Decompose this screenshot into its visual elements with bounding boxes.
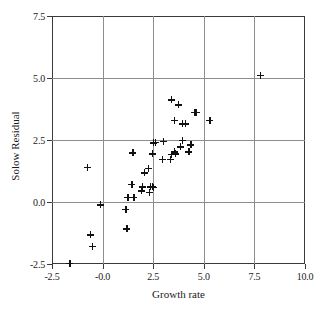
x-tick-label: 2.5: [147, 271, 159, 282]
x-axis-label: Growth rate: [52, 288, 305, 300]
gridline-horizontal: [52, 202, 305, 203]
y-tick-mark: [47, 202, 52, 203]
y-tick-mark: [47, 16, 52, 17]
x-tick-label: 10.0: [297, 271, 314, 282]
x-tick-mark: [153, 264, 154, 269]
y-tick-mark: [47, 78, 52, 79]
y-tick-label: 2.5: [33, 135, 45, 146]
x-tick-label: 7.5: [248, 271, 260, 282]
y-tick-label: 5.0: [33, 73, 45, 84]
x-tick-mark: [103, 264, 104, 269]
gridline-vertical: [254, 16, 255, 264]
y-axis-label: Solow Residual: [9, 86, 21, 206]
y-tick-label: 7.5: [33, 11, 45, 22]
x-tick-label: -0.0: [95, 271, 110, 282]
y-tick-label: 0.0: [33, 197, 45, 208]
x-tick-mark: [204, 264, 205, 269]
x-tick-mark: [52, 264, 53, 269]
gridline-horizontal: [52, 78, 305, 79]
x-tick-label: 5.0: [198, 271, 210, 282]
y-tick-label: -2.5: [30, 259, 45, 270]
y-tick-mark: [47, 140, 52, 141]
gridline-vertical: [204, 16, 205, 264]
x-tick-mark: [305, 264, 306, 269]
scatter-plot-figure: Growth rate Solow Residual 7.55.02.50.0-…: [0, 0, 325, 311]
gridline-horizontal: [52, 140, 305, 141]
gridline-vertical: [103, 16, 104, 264]
x-tick-mark: [254, 264, 255, 269]
gridline-vertical: [153, 16, 154, 264]
x-tick-label: -2.5: [44, 271, 59, 282]
